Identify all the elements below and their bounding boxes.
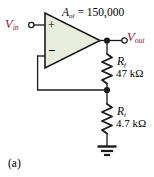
vout-symbol: V: [127, 30, 135, 44]
gain-value-text: = 150,000: [75, 6, 125, 18]
rf-symbol: R: [117, 55, 124, 67]
figure-caption: (a): [8, 158, 21, 170]
input-terminal-label: Vin: [5, 18, 19, 32]
open-loop-gain-label: Aol = 150,000: [62, 7, 124, 20]
ri-symbol: R: [117, 105, 124, 117]
opamp-circuit-figure: + − Aol = 150,000 Vin Vout Rf 47 kΩ Ri 4…: [0, 0, 154, 177]
input-resistor-value: 4.7 kΩ: [116, 118, 146, 129]
input-resistor-symbol: [102, 104, 112, 134]
input-terminal-circle: [29, 22, 34, 27]
feedback-resistor-symbol: [102, 54, 112, 84]
noninverting-input-symbol: +: [48, 19, 55, 31]
vout-subscript: out: [135, 36, 145, 45]
vin-subscript: in: [13, 23, 19, 32]
gain-symbol: A: [62, 6, 69, 18]
vin-symbol: V: [5, 17, 13, 31]
inverting-input-symbol: −: [48, 44, 55, 57]
circuit-schematic-svg: [0, 0, 154, 177]
feedback-resistor-value: 47 kΩ: [116, 68, 143, 79]
output-terminal-label: Vout: [127, 31, 145, 45]
